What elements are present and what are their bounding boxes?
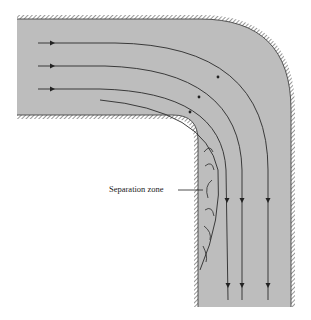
separation-zone-label: Separation zone [109,184,164,194]
fluid-channel [17,19,291,307]
inner-wall [17,115,198,307]
inner-wall-hatch [17,115,198,307]
pipe-bend-diagram [0,0,311,320]
